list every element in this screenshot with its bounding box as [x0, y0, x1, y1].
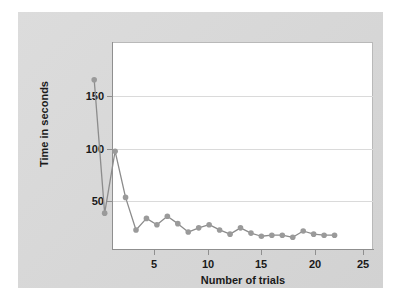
x-axis-line — [112, 249, 374, 250]
gridline-150 — [113, 96, 373, 97]
gridline-50 — [113, 201, 373, 202]
y-tick-50 — [107, 201, 112, 202]
y-tick-label-50: 50 — [66, 196, 104, 207]
plot-area — [113, 42, 373, 249]
y-axis-line — [112, 42, 113, 250]
y-tick-100 — [107, 149, 112, 150]
y-axis-title: Time in seconds — [38, 69, 50, 179]
x-tick-15 — [261, 250, 262, 255]
y-tick-label-150: 150 — [66, 91, 104, 102]
x-tick-label-25: 25 — [348, 258, 378, 270]
x-tick-10 — [208, 250, 209, 255]
x-tick-25 — [363, 250, 364, 255]
x-tick-20 — [315, 250, 316, 255]
y-tick-label-100: 100 — [66, 144, 104, 155]
x-axis-title: Number of trials — [113, 274, 373, 286]
chart-panel: 150 100 50 5 10 15 20 25 Time in seconds… — [18, 12, 383, 288]
figure-canvas: 150 100 50 5 10 15 20 25 Time in seconds… — [0, 0, 399, 300]
x-tick-5 — [154, 250, 155, 255]
y-tick-150 — [107, 96, 112, 97]
x-tick-label-15: 15 — [246, 258, 276, 270]
x-tick-label-10: 10 — [193, 258, 223, 270]
x-tick-label-20: 20 — [300, 258, 330, 270]
gridline-100 — [113, 149, 373, 150]
x-tick-label-5: 5 — [139, 258, 169, 270]
